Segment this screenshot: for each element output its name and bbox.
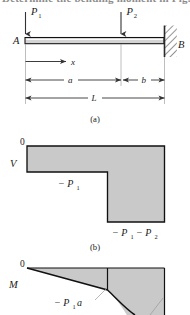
shear-value-p1: − P 1 xyxy=(58,178,80,191)
caption-a: (a) xyxy=(90,114,100,124)
shear-area-shape xyxy=(27,146,165,222)
dimension-l-label: L xyxy=(91,93,97,103)
node-label-a: A xyxy=(12,35,20,46)
shear-value-p1-p2-part1: − P xyxy=(112,227,127,238)
moment-zero-label: 0 xyxy=(20,259,25,269)
figure-root: Determine the bending moment in Fig. 4-1… xyxy=(0,0,190,315)
shear-value-p1-p2: − P 1 − P 2 xyxy=(112,227,158,240)
beam-free-body-diagram: P 1 P 2 A B x xyxy=(12,6,185,124)
shear-zero-label: 0 xyxy=(20,137,25,147)
x-axis-label: x xyxy=(70,57,75,67)
dimension-l: L xyxy=(26,92,165,103)
cropped-bottom-region xyxy=(0,307,190,315)
node-label-b: B xyxy=(178,39,185,50)
load-p2-label: P xyxy=(126,6,134,17)
shear-value-p1-p2-sub1: 1 xyxy=(131,233,134,240)
moment-leader-line-1 xyxy=(95,288,107,300)
load-p2-subscript: 2 xyxy=(134,12,137,19)
beam-body xyxy=(25,38,164,44)
shear-axis-label: V xyxy=(10,158,18,169)
moment-axis-label: M xyxy=(8,279,19,290)
dimension-a: a xyxy=(26,74,122,85)
shear-value-p1-subscript: 1 xyxy=(77,184,80,191)
fixed-support-hatching xyxy=(165,26,177,58)
mechanics-figure-svg: P 1 P 2 A B x xyxy=(0,0,190,315)
shear-value-p1-text: − P xyxy=(58,178,73,189)
caption-b: (b) xyxy=(90,242,100,252)
shear-force-diagram: V 0 − P 1 − P 1 − P 2 (b) xyxy=(10,137,165,252)
shear-value-p1-p2-sub2: 2 xyxy=(155,233,158,240)
dimension-b-label: b xyxy=(142,75,147,85)
shear-value-p1-p2-part2: − P xyxy=(136,227,151,238)
load-p1-subscript: 1 xyxy=(38,12,41,19)
load-p1-label: P xyxy=(30,6,38,17)
dimension-a-label: a xyxy=(68,75,73,85)
dimension-b: b xyxy=(123,74,165,85)
